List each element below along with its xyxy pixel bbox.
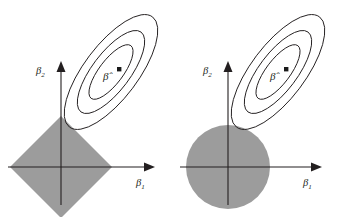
y-axis-arrow-icon	[224, 61, 233, 72]
ridge-rss-contours	[215, 1, 341, 144]
panel-ridge: β̂ β2 β1	[180, 0, 359, 217]
contour-middle	[66, 21, 157, 124]
contour-inner	[249, 38, 308, 105]
beta-hat-label: β̂	[102, 70, 113, 82]
panel-lasso-svg: β̂ β2 β1	[0, 0, 179, 217]
y-axis-label: β2	[35, 65, 45, 79]
x-axis-label: β1	[135, 177, 145, 191]
y-axis-label-sub: 2	[41, 71, 45, 79]
beta-hat-label: β̂	[269, 70, 280, 82]
x-axis-arrow-icon	[144, 163, 155, 172]
x-axis-label-sub: 1	[141, 183, 145, 191]
contour-middle	[233, 21, 324, 124]
x-axis-label: β1	[302, 177, 312, 191]
x-axis-arrow-icon	[311, 163, 322, 172]
contour-inner	[82, 38, 141, 105]
beta-hat-point	[117, 67, 121, 71]
beta-hat-point	[284, 67, 288, 71]
panel-ridge-svg: β̂ β2 β1	[180, 0, 359, 217]
contour-outer	[215, 1, 341, 144]
figure-canvas: β̂ β2 β1	[0, 0, 359, 217]
y-axis-label-sub: 2	[208, 71, 212, 79]
y-axis-arrow-icon	[57, 61, 66, 72]
y-axis-label: β2	[202, 65, 212, 79]
panel-lasso: β̂ β2 β1	[0, 0, 179, 217]
x-axis-label-sub: 1	[308, 183, 312, 191]
